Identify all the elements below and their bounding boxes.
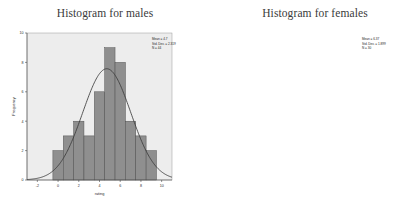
svg-text:8: 8: [140, 184, 142, 188]
svg-text:-2: -2: [36, 184, 39, 188]
stats-n-males: N = 44: [152, 46, 176, 51]
stats-n-females: N = 30: [362, 46, 386, 51]
histogram-panel-males: Histogram for males -202468100246810rati…: [0, 0, 210, 212]
svg-text:10: 10: [20, 31, 24, 35]
svg-text:0: 0: [22, 178, 24, 182]
plot-area-males: -202468100246810ratingFrequency: [0, 0, 210, 212]
stats-annotation-males: Mean = 4.7 Std. Dev. = 2.319 N = 44: [152, 37, 176, 51]
figure-container: Histogram for males -202468100246810rati…: [0, 0, 420, 212]
svg-text:4: 4: [99, 184, 101, 188]
svg-text:10: 10: [160, 184, 164, 188]
svg-text:6: 6: [22, 90, 24, 94]
svg-text:2: 2: [22, 149, 24, 153]
histogram-panel-females: Histogram for females 2468101202468ratin…: [210, 0, 420, 212]
stats-annotation-females: Mean = 6.37 Std. Dev. = 1.899 N = 30: [362, 37, 386, 51]
svg-text:Frequency: Frequency: [11, 97, 16, 115]
svg-text:0: 0: [57, 184, 59, 188]
svg-text:8: 8: [22, 61, 24, 65]
svg-text:6: 6: [119, 184, 121, 188]
plot-area-females: 2468101202468ratingFrequency: [210, 0, 420, 212]
svg-text:4: 4: [22, 120, 24, 124]
svg-text:2: 2: [78, 184, 80, 188]
svg-text:rating: rating: [95, 191, 105, 196]
